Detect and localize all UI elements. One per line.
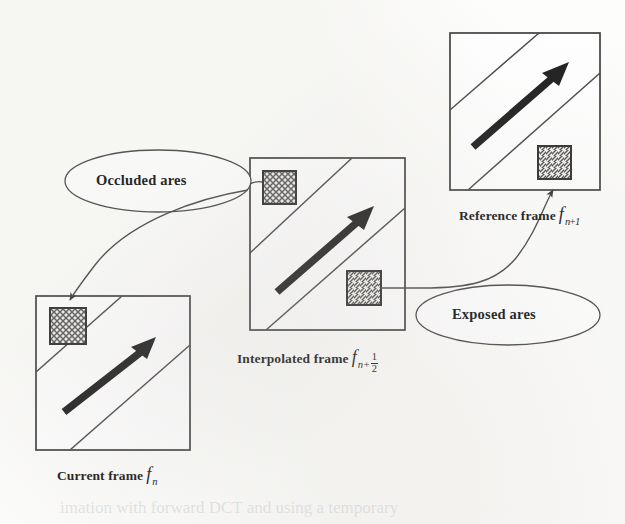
interpolated-frame-subscript-fraction: 12	[370, 352, 378, 374]
current-frame-subscript: n	[151, 476, 157, 487]
current-frame-caption-text: Current frame	[57, 468, 143, 483]
reference-frame-subscript: n+1	[564, 216, 579, 227]
exposed-region-reference	[538, 146, 571, 179]
interpolated-frame-symbol: f	[349, 347, 357, 367]
reference-frame-group	[450, 33, 600, 190]
diagram-canvas	[0, 0, 625, 524]
exposed-callout-label: Exposed ares	[452, 307, 536, 322]
interpolated-frame-subscript: n+12	[357, 352, 378, 374]
interpolated-frame-caption: Interpolated framefn+12	[237, 348, 378, 375]
reference-frame-caption: Reference framefn+1	[459, 205, 579, 227]
reference-frame-caption-text: Reference frame	[459, 208, 556, 223]
page-bleed-text: imation with forward DCT and using a tem…	[60, 498, 398, 518]
current-frame-group	[36, 296, 190, 450]
occluded-region-interpolated	[263, 171, 296, 204]
occluded-callout-label: Occluded ares	[96, 173, 187, 188]
interpolated-frame-group	[250, 158, 405, 330]
occluded-region-current	[50, 308, 86, 344]
interpolated-frame-caption-text: Interpolated frame	[237, 351, 349, 366]
exposed-region-interpolated	[347, 271, 381, 305]
current-frame-caption: Current framefn	[57, 465, 158, 487]
reference-frame-border	[450, 33, 600, 190]
interpolated-frame-subscript-base: n+	[358, 359, 371, 370]
figure-page: Occluded ares Exposed ares Current frame…	[0, 0, 625, 524]
fraction-denominator: 2	[371, 364, 378, 375]
reference-frame-symbol: f	[556, 204, 564, 224]
